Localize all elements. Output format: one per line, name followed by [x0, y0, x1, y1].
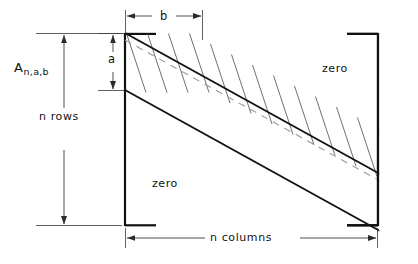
matrix-subscript: n,a,b: [24, 66, 49, 77]
matrix-bracket-left: [125, 33, 156, 226]
figure-canvas: An,a,b n rows a b zero zero n columns: [0, 0, 418, 264]
zero-region-lower-left-label: zero: [152, 177, 178, 190]
matrix-symbol: A: [14, 60, 24, 75]
bandwidth-a-label: a: [108, 52, 116, 66]
matrix-symbol-label: An,a,b: [14, 60, 49, 77]
zero-region-upper-right-label: zero: [322, 62, 348, 75]
matrix-bracket-right: [347, 33, 378, 226]
banded-matrix-svg: [0, 0, 418, 264]
n-rows-label: n rows: [39, 110, 79, 123]
right-clip-mask: [379, 0, 418, 264]
n-columns-label: n columns: [210, 231, 272, 244]
bandwidth-b-label: b: [160, 9, 168, 23]
